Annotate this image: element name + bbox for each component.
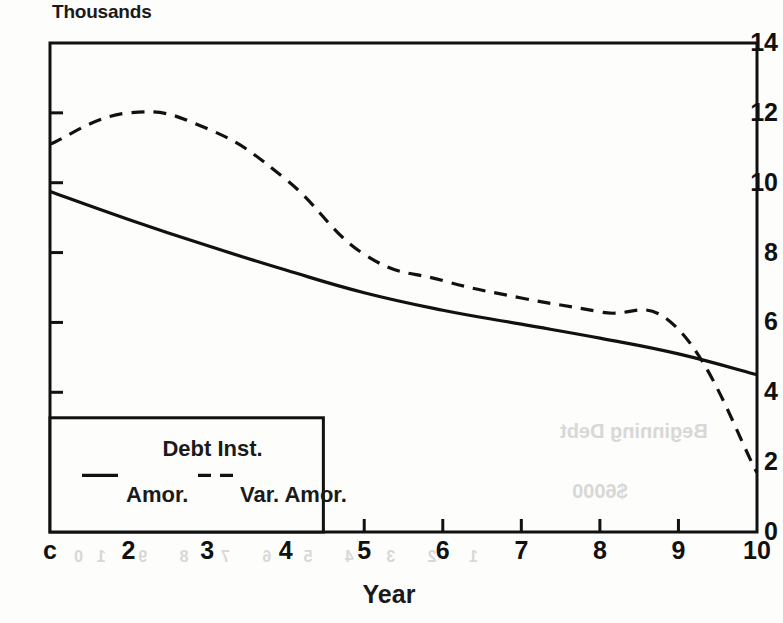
x-axis-title: Year: [0, 580, 778, 609]
legend-title: Debt Inst.: [100, 436, 325, 462]
x-tick-label: 5: [334, 538, 394, 563]
x-tick-label: c: [20, 538, 80, 563]
y-tick-label: 6: [734, 309, 778, 334]
x-tick-label: 4: [256, 538, 316, 563]
x-tick-label: 3: [177, 538, 237, 563]
x-tick-label: 7: [491, 538, 551, 563]
y-tick-label: 4: [734, 379, 778, 404]
y-tick-label: 10: [734, 170, 778, 195]
x-tick-label: 2: [99, 538, 159, 563]
x-tick-label: 8: [570, 538, 630, 563]
y-tick-label: 8: [734, 240, 778, 265]
y-tick-label: 2: [734, 449, 778, 474]
x-tick-label: 10: [727, 538, 783, 563]
x-tick-label: 9: [648, 538, 708, 563]
x-tick-label: 6: [413, 538, 473, 563]
y-tick-label: 12: [734, 100, 778, 125]
legend-label-amor: Amor.: [126, 482, 188, 508]
y-tick-label: 14: [734, 30, 778, 55]
legend-label-var-amor: Var. Amor.: [240, 482, 347, 508]
